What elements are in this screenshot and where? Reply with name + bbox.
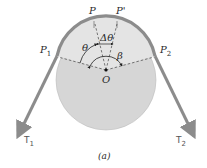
label-delta-theta: Δθ (100, 33, 113, 43)
label-T2: T2 (176, 136, 186, 148)
label-P2-main: P (160, 44, 167, 55)
label-P: P (89, 6, 96, 16)
label-P1: P1 (40, 45, 51, 58)
label-P-prime: P' (116, 6, 125, 16)
label-T2-sub: 2 (182, 140, 186, 148)
label-P1-sub: 1 (47, 50, 51, 58)
label-P2-sub: 2 (167, 50, 171, 58)
label-P2: P2 (160, 45, 171, 58)
label-theta: θ (82, 43, 88, 53)
label-T1: T1 (24, 136, 34, 148)
label-T1-sub: 1 (30, 140, 34, 148)
label-beta: β (117, 51, 123, 61)
figure-caption: (a) (98, 152, 110, 161)
label-P1-main: P (40, 44, 47, 55)
belt-left-span (18, 56, 57, 136)
belt-right-span (155, 56, 194, 136)
label-O: O (102, 75, 110, 85)
center-O (104, 68, 107, 71)
